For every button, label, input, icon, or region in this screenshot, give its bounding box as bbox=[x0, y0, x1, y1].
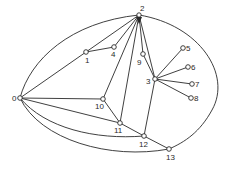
node-0 bbox=[18, 96, 23, 101]
node-label-13: 13 bbox=[166, 153, 175, 162]
node-10 bbox=[101, 97, 106, 102]
edge-11-12 bbox=[120, 123, 144, 136]
node-label-9: 9 bbox=[137, 58, 142, 67]
node-8 bbox=[189, 96, 194, 101]
edge-2-3 bbox=[139, 15, 155, 79]
node-label-10: 10 bbox=[95, 102, 104, 111]
nodes-group bbox=[18, 13, 195, 152]
node-5 bbox=[181, 46, 186, 51]
edge-4-2 bbox=[114, 15, 139, 47]
node-4 bbox=[112, 45, 117, 50]
node-12 bbox=[142, 134, 147, 139]
node-1 bbox=[84, 50, 89, 55]
node-label-8: 8 bbox=[194, 94, 199, 103]
node-13 bbox=[167, 147, 172, 152]
node-label-3: 3 bbox=[146, 77, 151, 86]
labels-group: 012345678910111213 bbox=[12, 4, 200, 162]
edge-2-11 bbox=[120, 15, 139, 123]
node-2 bbox=[137, 13, 141, 17]
node-label-12: 12 bbox=[139, 140, 148, 149]
edge-9-3 bbox=[143, 54, 155, 79]
node-label-0: 0 bbox=[12, 94, 17, 103]
edge-0-10 bbox=[20, 98, 103, 99]
node-7 bbox=[190, 82, 195, 87]
node-label-6: 6 bbox=[191, 63, 196, 72]
node-label-1: 1 bbox=[85, 56, 90, 65]
node-9 bbox=[141, 52, 146, 57]
node-label-5: 5 bbox=[186, 44, 191, 53]
node-6 bbox=[186, 65, 191, 70]
edge-3-12 bbox=[144, 79, 155, 136]
edge-0-12 bbox=[20, 98, 144, 137]
node-label-7: 7 bbox=[195, 80, 200, 89]
node-label-11: 11 bbox=[114, 126, 123, 135]
graph-diagram: 012345678910111213 bbox=[0, 0, 229, 177]
node-11 bbox=[118, 121, 123, 126]
node-3 bbox=[153, 77, 158, 82]
node-label-2: 2 bbox=[140, 4, 145, 13]
node-label-4: 4 bbox=[111, 50, 116, 59]
